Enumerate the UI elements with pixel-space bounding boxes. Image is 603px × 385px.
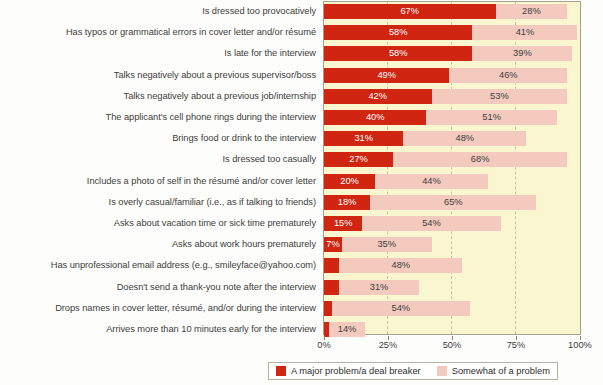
bar-value-somewhat: 53% (432, 89, 568, 104)
bar-row: 31%48% (324, 131, 580, 146)
legend-swatch-major (276, 366, 286, 376)
legend-item-somewhat: Somewhat of a problem (437, 366, 550, 376)
bar-row: 58%41% (324, 25, 580, 40)
bar-value-major: 7% (324, 237, 342, 252)
bar-value-somewhat: 48% (339, 258, 462, 273)
bar-value-somewhat: 44% (375, 174, 488, 189)
bar-row: 20%44% (324, 174, 580, 189)
x-tick-label: 100% (568, 340, 592, 350)
bar-value-major: 40% (324, 110, 426, 125)
bar-row: 27%68% (324, 152, 580, 167)
x-tick-label: 50% (443, 340, 462, 350)
bar-value-major: 18% (324, 195, 370, 210)
bar-value-somewhat: 65% (370, 195, 536, 210)
bar-value-major: 67% (324, 4, 496, 19)
category-label: Arrives more than 10 minutes early for t… (0, 324, 322, 335)
bar-row: 31% (324, 280, 580, 295)
bar-row: 49%46% (324, 68, 580, 83)
bar-value-major: 15% (324, 216, 362, 231)
bars-layer: 67%28%58%41%58%39%49%46%42%53%40%51%31%4… (324, 1, 580, 335)
bar-value-major: 27% (324, 152, 393, 167)
bar-value-somewhat: 39% (472, 46, 572, 61)
bar-row: 14% (324, 322, 580, 337)
category-label: Doesn't send a thank-you note after the … (0, 282, 322, 293)
bar-segment-major (324, 280, 339, 295)
bar-value-somewhat: 51% (426, 110, 557, 125)
category-label: The applicant's cell phone rings during … (0, 112, 322, 123)
category-label: Has typos or grammatical errors in cover… (0, 27, 322, 38)
legend-label-somewhat: Somewhat of a problem (452, 366, 550, 376)
category-label: Is overly casual/familiar (i.e., as if t… (0, 197, 322, 208)
bar-value-somewhat: 54% (362, 216, 500, 231)
x-axis: 0%25%50%75%100% (323, 336, 581, 352)
stacked-bar-chart: Is dressed too provocativelyHas typos or… (0, 0, 603, 385)
category-label: Is late for the interview (0, 48, 322, 59)
legend-swatch-somewhat (437, 366, 447, 376)
bar-value-major: 58% (324, 46, 472, 61)
chart-legend: A major problem/a deal breaker Somewhat … (268, 362, 558, 380)
category-label: Is dressed too casually (0, 154, 322, 165)
category-label: Is dressed too provocatively (0, 6, 322, 17)
category-label: Brings food or drink to the interview (0, 133, 322, 144)
bar-row: 58%39% (324, 46, 580, 61)
bar-row: 7%35% (324, 237, 580, 252)
bar-value-somewhat: 35% (342, 237, 432, 252)
bar-value-somewhat: 54% (332, 301, 470, 316)
legend-item-major: A major problem/a deal breaker (276, 366, 421, 376)
category-label: Talks negatively about a previous job/in… (0, 91, 322, 102)
category-label: Asks about vacation time or sick time pr… (0, 218, 322, 229)
legend-label-major: A major problem/a deal breaker (291, 366, 421, 376)
bar-row: 67%28% (324, 4, 580, 19)
bar-value-somewhat: 48% (403, 131, 526, 146)
bar-row: 18%65% (324, 195, 580, 210)
bar-value-somewhat: 28% (496, 4, 568, 19)
bar-row: 42%53% (324, 89, 580, 104)
bar-row: 48% (324, 258, 580, 273)
category-label: Talks negatively about a previous superv… (0, 70, 322, 81)
x-tick-label: 25% (379, 340, 398, 350)
x-tick-label: 75% (507, 340, 526, 350)
bar-value-somewhat: 41% (472, 25, 577, 40)
bar-row: 40%51% (324, 110, 580, 125)
bar-value-major: 58% (324, 25, 472, 40)
bar-row: 54% (324, 301, 580, 316)
bar-value-major: 42% (324, 89, 432, 104)
x-tick-label: 0% (317, 340, 330, 350)
bar-value-somewhat: 14% (329, 322, 365, 337)
bar-value-somewhat: 46% (449, 68, 567, 83)
category-label: Has unprofessional email address (e.g., … (0, 260, 322, 271)
bar-segment-major (324, 258, 339, 273)
bar-value-somewhat: 68% (393, 152, 567, 167)
bar-value-somewhat: 31% (339, 280, 418, 295)
category-label: Asks about work hours prematurely (0, 239, 322, 250)
category-label: Includes a photo of self in the résumé a… (0, 176, 322, 187)
bar-value-major: 49% (324, 68, 449, 83)
bar-value-major: 20% (324, 174, 375, 189)
bar-value-major: 31% (324, 131, 403, 146)
bar-segment-major (324, 301, 332, 316)
bar-row: 15%54% (324, 216, 580, 231)
category-label: Drops names in cover letter, résumé, and… (0, 303, 322, 314)
